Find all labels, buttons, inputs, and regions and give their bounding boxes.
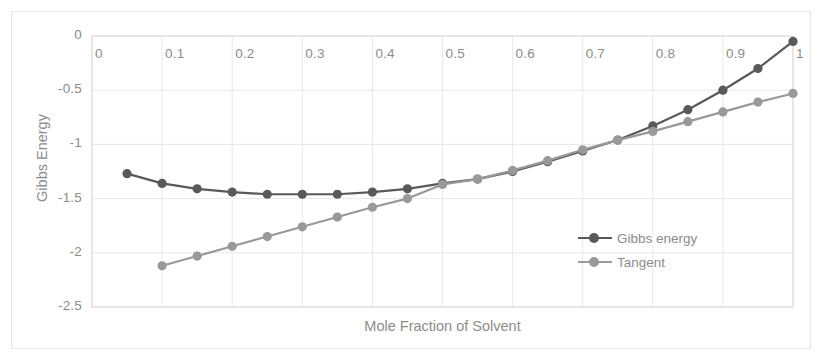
legend-dot-gibbs-energy — [589, 233, 599, 243]
data-point — [263, 232, 272, 241]
y-tick-label: -2.5 — [0, 298, 82, 313]
x-tick-label: 0.2 — [235, 46, 254, 61]
x-tick-label: 0.4 — [375, 46, 394, 61]
data-point — [788, 37, 797, 46]
data-point — [403, 194, 412, 203]
data-point — [508, 166, 517, 175]
data-point — [438, 180, 447, 189]
data-point — [158, 261, 167, 270]
series-line-gibbs-energy — [127, 41, 793, 194]
data-point — [648, 127, 657, 136]
data-point — [263, 190, 272, 199]
data-point — [683, 105, 692, 114]
chart-screenshot: 0-0.5-1-1.5-2-2.5 00.10.20.30.40.50.60.7… — [0, 0, 824, 363]
legend-label-tangent: Tangent — [612, 255, 665, 270]
chart-plot-area — [0, 0, 824, 363]
x-tick-label: 0.7 — [586, 46, 605, 61]
y-tick-label: 0 — [0, 27, 82, 42]
data-point — [298, 222, 307, 231]
data-point — [788, 89, 797, 98]
data-point — [228, 242, 237, 251]
data-point — [368, 203, 377, 212]
legend-item-tangent[interactable]: Tangent — [578, 250, 728, 274]
legend-dot-tangent — [589, 257, 599, 267]
data-point — [193, 251, 202, 260]
legend-marker-icon — [578, 256, 612, 268]
data-point — [578, 145, 587, 154]
x-tick-label: 0.8 — [656, 46, 675, 61]
x-tick-label: 0.6 — [516, 46, 535, 61]
data-point — [613, 135, 622, 144]
data-point — [193, 184, 202, 193]
data-point — [753, 64, 762, 73]
x-tick-label: 1 — [796, 46, 804, 61]
x-tick-label: 0.5 — [446, 46, 465, 61]
data-point — [333, 212, 342, 221]
legend-label-gibbs-energy: Gibbs energy — [612, 231, 697, 246]
data-point — [718, 107, 727, 116]
y-tick-label: -2 — [0, 244, 82, 259]
data-point — [403, 184, 412, 193]
data-point — [298, 190, 307, 199]
data-point — [718, 86, 727, 95]
data-point — [122, 169, 131, 178]
chart-legend: Gibbs energy Tangent — [578, 226, 728, 274]
x-tick-label: 0 — [95, 46, 103, 61]
x-tick-label: 0.1 — [165, 46, 184, 61]
data-point — [158, 179, 167, 188]
data-point — [683, 117, 692, 126]
data-point — [473, 174, 482, 183]
data-point — [368, 188, 377, 197]
x-tick-label: 0.3 — [305, 46, 324, 61]
x-axis-title: Mole Fraction of Solvent — [92, 318, 793, 334]
legend-marker-icon — [578, 232, 612, 244]
y-axis-title: Gibbs Energy — [34, 88, 50, 228]
data-point — [753, 98, 762, 107]
data-point — [228, 188, 237, 197]
data-point — [333, 190, 342, 199]
legend-item-gibbs-energy[interactable]: Gibbs energy — [578, 226, 728, 250]
x-tick-label: 0.9 — [726, 46, 745, 61]
data-point — [543, 156, 552, 165]
